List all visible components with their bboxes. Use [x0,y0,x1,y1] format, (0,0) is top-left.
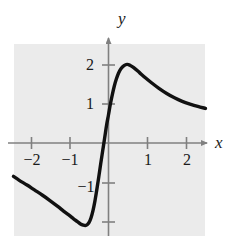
y-tick-label--1: −1 [72,179,100,195]
y-tick-label-1: 1 [82,96,98,112]
x-tick-label--2: −2 [18,152,46,168]
function-curve [13,64,205,225]
y-tick-label-2: 2 [82,57,98,73]
y-axis-label: y [118,10,126,27]
x-tick-label-1: 1 [135,152,161,168]
x-tick-label-2: 2 [174,152,200,168]
x-tick-label--1: −1 [56,152,84,168]
graph-canvas [0,0,236,241]
x-axis-label: x [215,134,223,151]
graph-figure: y x −2 −1 1 2 2 1 −1 [0,0,236,241]
